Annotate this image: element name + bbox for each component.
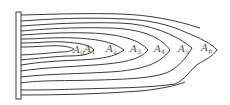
contour-a4	[21, 28, 170, 77]
contour-outer-top	[21, 14, 200, 28]
label-a5: A5	[178, 44, 189, 57]
wall-bar	[16, 12, 21, 99]
label-a3: A3	[130, 44, 141, 57]
label-sub: 3	[137, 48, 141, 55]
label-a1: A1	[84, 44, 95, 57]
label-a0: A0	[73, 45, 84, 58]
label-an: An	[201, 43, 212, 56]
contour-a0	[21, 46, 74, 55]
label-a4: A4	[154, 44, 165, 57]
label-sub: 4	[161, 48, 165, 55]
label-sub: n	[208, 47, 212, 54]
label-sub: 2	[113, 48, 117, 55]
label-sub: 5	[185, 48, 189, 55]
label-a2: A2	[106, 44, 117, 57]
label-sub: 1	[91, 48, 95, 55]
